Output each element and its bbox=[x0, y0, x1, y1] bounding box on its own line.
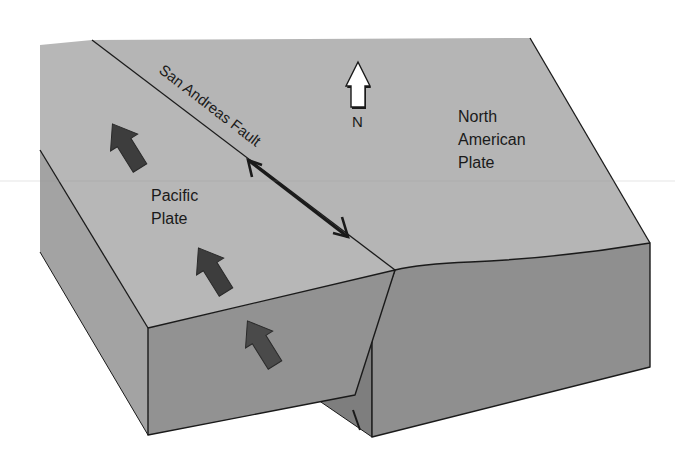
north-american-plate-label-line2: American bbox=[458, 131, 526, 148]
north-american-plate-label-line3: Plate bbox=[458, 154, 495, 171]
north-american-plate-label-line1: North bbox=[458, 108, 497, 125]
pacific-plate-label-line1: Pacific bbox=[151, 187, 198, 204]
pacific-plate-label-line2: Plate bbox=[151, 210, 188, 227]
san-andreas-fault-diagram: N San Andreas Fault North American Plate… bbox=[0, 0, 675, 458]
north-label: N bbox=[352, 113, 363, 130]
